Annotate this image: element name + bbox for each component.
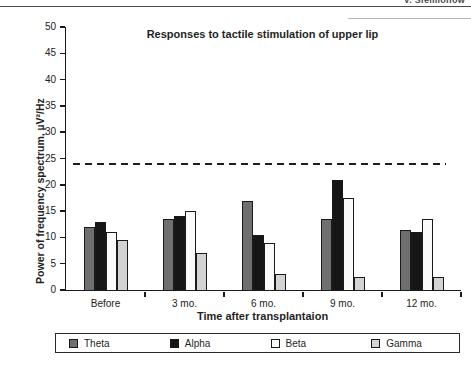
y-tick-label: 15 [34,206,56,216]
y-tick [60,289,65,291]
y-tick [60,184,65,186]
y-tick [60,158,65,160]
legend-label-gamma: Gamma [386,338,422,349]
x-tick [460,292,462,297]
bar-beta-6-mo- [264,243,275,290]
bar-gamma-12-mo- [433,277,444,290]
y-tick-label: 10 [34,232,56,242]
y-tick [60,131,65,133]
y-tick-label: 35 [34,101,56,111]
reference-dashed-line [73,163,446,165]
y-tick [60,53,65,55]
bar-gamma-9-mo- [354,277,365,290]
y-tick-label: 20 [34,180,56,190]
page: V. Siemionow Responses to tactile stimul… [0,0,471,374]
bar-alpha-3-mo- [174,216,185,290]
legend: ThetaAlphaBetaGamma [55,333,460,353]
y-tick [60,26,65,28]
x-tick-label-before: Before [66,298,145,309]
x-tick [144,292,146,297]
legend-item-gamma: Gamma [358,338,459,349]
y-tick [60,79,65,81]
legend-swatch-gamma [371,339,380,348]
x-tick-label-12-mo-: 12 mo. [382,298,461,309]
bar-alpha-6-mo- [253,235,264,290]
bar-gamma-6-mo- [275,274,286,290]
y-tick [60,237,65,239]
bar-theta-12-mo- [400,230,411,290]
x-tick [223,292,225,297]
plot-area: Power of frequency spectrum, µV²/Hz 0510… [65,27,461,291]
legend-label-alpha: Alpha [185,338,211,349]
bar-gamma-3-mo- [196,253,207,290]
bar-beta-before [106,232,117,290]
bar-beta-12-mo- [422,219,433,290]
legend-label-beta: Beta [286,338,307,349]
legend-item-theta: Theta [56,338,157,349]
y-tick-label: 50 [34,22,56,32]
y-tick [60,263,65,265]
bar-alpha-12-mo- [411,232,422,290]
bar-beta-9-mo- [343,198,354,290]
y-tick-label: 45 [34,48,56,58]
figure: Responses to tactile stimulation of uppe… [0,0,471,374]
legend-swatch-theta [69,339,78,348]
y-tick-label: 0 [34,285,56,295]
bar-theta-before [84,227,95,290]
x-tick-label-6-mo-: 6 mo. [224,298,303,309]
x-tick [381,292,383,297]
y-tick-label: 30 [34,127,56,137]
bar-beta-3-mo- [185,211,196,290]
legend-item-beta: Beta [258,338,359,349]
legend-swatch-beta [271,339,280,348]
bar-theta-9-mo- [321,219,332,290]
y-tick-label: 5 [34,259,56,269]
bar-theta-3-mo- [163,219,174,290]
x-tick-label-9-mo-: 9 mo. [303,298,382,309]
x-tick [302,292,304,297]
legend-swatch-alpha [170,339,179,348]
legend-label-theta: Theta [84,338,110,349]
x-tick-label-3-mo-: 3 mo. [145,298,224,309]
x-axis-title: Time after transplantaion [65,310,460,322]
bar-alpha-before [95,222,106,290]
bar-theta-6-mo- [242,201,253,290]
y-tick [60,105,65,107]
y-tick-label: 40 [34,75,56,85]
y-tick [60,210,65,212]
bar-gamma-before [117,240,128,290]
legend-item-alpha: Alpha [157,338,258,349]
bar-alpha-9-mo- [332,180,343,290]
y-tick-label: 25 [34,154,56,164]
